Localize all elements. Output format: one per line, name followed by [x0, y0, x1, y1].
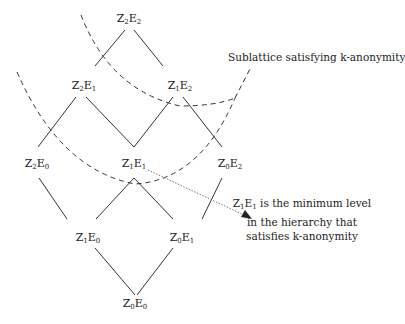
sublattice-label: Sublattice satisfying k-anonymity	[228, 50, 405, 65]
node-z2e1: Z2E1	[72, 80, 97, 95]
annotation-line-1: Z1E1 is the minimum level	[233, 196, 371, 215]
node-z2e0: Z2E0	[25, 158, 50, 173]
node-z2e2: Z2E2	[117, 13, 142, 28]
node-z0e2: Z0E2	[218, 158, 243, 173]
node-z1e1: Z1E1	[122, 158, 147, 173]
annotation-line-2: in the hierarchy that	[233, 215, 371, 230]
node-z1e0: Z1E0	[76, 232, 101, 247]
node-z0e1: Z0E1	[170, 232, 195, 247]
node-z1e2: Z1E2	[168, 80, 193, 95]
minimum-level-annotation: Z1E1 is the minimum level in the hierarc…	[233, 196, 371, 244]
node-z0e0: Z0E0	[123, 298, 148, 313]
annotation-line-3: satisfies k-anonymity	[233, 229, 371, 244]
